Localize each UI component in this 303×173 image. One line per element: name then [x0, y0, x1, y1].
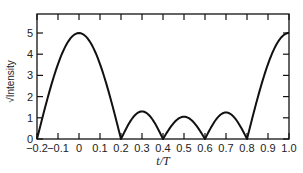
y-tick-label: 2: [27, 91, 33, 103]
x-tick-label: −0.1: [47, 142, 69, 154]
x-tick-label: 0.7: [218, 142, 233, 154]
x-tick-label: 0.3: [134, 142, 149, 154]
y-tick-label: 4: [27, 48, 33, 60]
y-tick-label: 1: [27, 112, 33, 124]
x-tick-label: 0.9: [260, 142, 275, 154]
x-tick-label: 0.1: [92, 142, 107, 154]
x-tick-label: 0.8: [239, 142, 254, 154]
y-tick-label: 5: [27, 27, 33, 39]
x-tick-label: 0.4: [155, 142, 170, 154]
x-tick-label: 0.6: [197, 142, 212, 154]
intensity-curve: [37, 33, 289, 139]
x-tick-label: 0: [76, 142, 82, 154]
x-tick-label: 0.2: [113, 142, 128, 154]
y-tick-label: 3: [27, 69, 33, 81]
sqrt-intensity-chart: −0.2−0.100.10.20.30.40.50.60.70.80.91.0 …: [0, 0, 303, 173]
x-tick-label: 0.5: [176, 142, 191, 154]
x-tick-label: 1.0: [281, 142, 296, 154]
y-tick-label: 0: [27, 133, 33, 145]
x-axis-label: t/T: [156, 154, 171, 168]
y-axis-label: √Intensity: [5, 60, 16, 103]
x-axis-ticks: −0.2−0.100.10.20.30.40.50.60.70.80.91.0: [26, 14, 297, 154]
